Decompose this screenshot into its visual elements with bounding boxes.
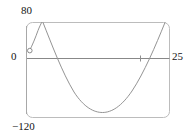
- curve-parabola: [43, 23, 165, 113]
- y-max-label: 80: [21, 5, 32, 16]
- y-min-label: −120: [12, 121, 35, 132]
- graph-viewport: 80 0 25 −120: [0, 0, 194, 138]
- x-max-label: 25: [172, 51, 183, 62]
- open-circle-marker: [28, 48, 33, 53]
- plot-frame: [27, 23, 170, 118]
- plot-canvas: [0, 0, 194, 138]
- x-origin-label: 0: [11, 51, 17, 62]
- curve-steep-branch: [30, 23, 42, 51]
